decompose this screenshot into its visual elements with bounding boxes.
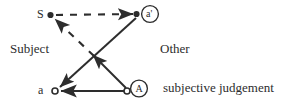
node-label-big-a: A xyxy=(136,84,143,94)
node-label-s: S xyxy=(37,8,44,20)
label-other: Other xyxy=(160,42,190,55)
label-subject: Subject xyxy=(10,42,49,55)
node-label-a: a xyxy=(38,84,43,96)
edge-a-prime-to-a xyxy=(60,18,136,87)
edge-crossing-to-s xyxy=(55,19,94,56)
node-marker-s xyxy=(47,12,53,18)
node-marker-big-a xyxy=(124,88,130,94)
node-marker-a xyxy=(52,88,58,94)
node-marker-a-prime xyxy=(133,11,139,17)
label-subjective-judgement: subjective judgement xyxy=(163,81,274,94)
edge-big-a-to-crossing xyxy=(93,55,126,88)
node-label-a-prime: a' xyxy=(146,9,152,19)
l-schema-diagram: S a' a A Subject Other subjective judgem… xyxy=(0,0,294,108)
edge-s-to-a-prime xyxy=(56,14,133,15)
